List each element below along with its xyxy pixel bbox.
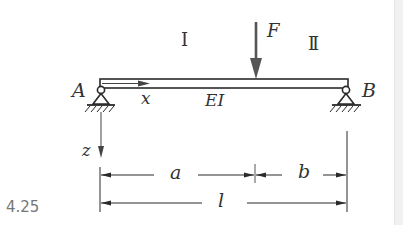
z-axis-arrow bbox=[98, 112, 104, 158]
page-edge-strip bbox=[394, 0, 403, 225]
beam-diagram-svg bbox=[0, 0, 403, 225]
z-axis-label: z bbox=[82, 143, 90, 159]
dimension-a-label: a bbox=[170, 163, 181, 182]
support-b-label: B bbox=[362, 81, 376, 100]
pin-support-b bbox=[330, 86, 361, 112]
region-1-label: I bbox=[181, 31, 188, 49]
region-2-label: II bbox=[308, 35, 316, 53]
force-label: F bbox=[267, 22, 280, 40]
support-a-label: A bbox=[72, 81, 86, 100]
figure-number: 4.25 bbox=[6, 200, 39, 215]
beam-diagram: I F II A B x EI z a b l 4.25 bbox=[0, 0, 403, 225]
stiffness-label: EI bbox=[205, 92, 224, 109]
x-axis-label: x bbox=[141, 90, 151, 107]
dimension-l-label: l bbox=[218, 191, 224, 210]
force-arrow bbox=[250, 22, 262, 79]
pin-support-a bbox=[85, 86, 115, 112]
dimension-b-label: b bbox=[298, 162, 310, 181]
